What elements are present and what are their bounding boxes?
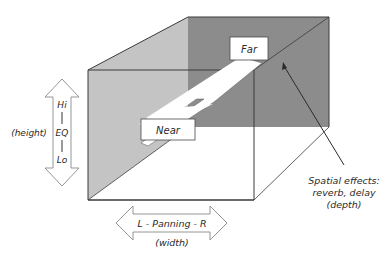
depth-annotation-line2: reverb, delay [312, 187, 376, 198]
width-caption: (width) [155, 237, 189, 248]
far-box: Far [230, 37, 268, 60]
height-caption: (height) [11, 128, 47, 138]
depth-annotation-line3: (depth) [326, 199, 361, 210]
near-label: Near [156, 125, 181, 136]
panning-label: L - Panning - R [137, 218, 206, 229]
near-box: Near [141, 119, 195, 140]
hi-label: Hi [57, 100, 67, 110]
eq-label: EQ [56, 128, 69, 138]
back-wall [188, 17, 329, 127]
lo-label: Lo [57, 155, 68, 165]
far-label: Far [241, 44, 258, 55]
mix-space-diagram: Far Near Hi EQ Lo (height) L - Panning -… [0, 0, 388, 259]
depth-annotation-line1: Spatial effects: [308, 175, 379, 186]
